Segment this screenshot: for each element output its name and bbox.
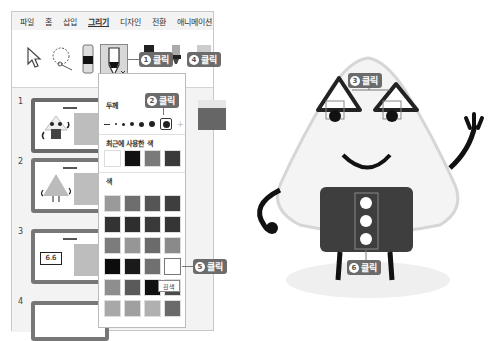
thickness-label: 두께 xyxy=(106,100,118,110)
recent-colors-label: 최근에 사용한 색 xyxy=(106,138,153,148)
thickness-option[interactable] xyxy=(149,121,155,127)
color-swatch[interactable] xyxy=(104,258,121,275)
recent-color-swatch[interactable] xyxy=(164,150,181,167)
left-leg xyxy=(338,252,340,280)
callout-6: 6클릭 xyxy=(347,260,381,275)
button-dot xyxy=(360,233,372,245)
color-swatch[interactable] xyxy=(164,300,181,317)
color-swatch[interactable] xyxy=(144,195,161,212)
color-swatch[interactable] xyxy=(104,195,121,212)
editor-area-shape xyxy=(198,108,226,130)
color-swatch[interactable] xyxy=(144,300,161,317)
callout-1: 1클릭 xyxy=(139,52,173,67)
pen-1-icon[interactable] xyxy=(82,44,94,74)
color-swatch[interactable] xyxy=(124,237,141,254)
recent-color-swatch[interactable] xyxy=(144,150,161,167)
recent-color-swatch[interactable] xyxy=(104,150,121,167)
ribbon-tabs: 파일 홈 삽입 그리기 디자인 전환 애니메이션 xyxy=(12,12,213,30)
callout-3: 3클릭 xyxy=(348,73,382,88)
rice-ball-illustration xyxy=(39,172,73,204)
color-swatch[interactable] xyxy=(144,258,161,275)
slide-number: 1 xyxy=(18,97,23,106)
thickness-option[interactable] xyxy=(139,122,144,127)
color-swatch[interactable] xyxy=(164,237,181,254)
button-dot xyxy=(360,215,372,227)
recent-color-swatch[interactable] xyxy=(124,150,141,167)
divider xyxy=(99,134,185,135)
color-swatch[interactable] xyxy=(104,237,121,254)
thickness-option[interactable] xyxy=(104,124,110,125)
color-swatch[interactable] xyxy=(144,216,161,233)
color-swatch[interactable] xyxy=(104,300,121,317)
character-illustration xyxy=(39,114,73,144)
lasso-select-icon[interactable] xyxy=(50,46,74,72)
select-arrow-icon[interactable] xyxy=(26,46,42,70)
button-dot xyxy=(360,197,372,209)
callout-2: 2클릭 xyxy=(145,93,179,108)
color-swatch[interactable] xyxy=(124,279,141,296)
tab-draw[interactable]: 그리기 xyxy=(88,16,109,27)
colors-label: 색 xyxy=(106,176,112,186)
right-leg xyxy=(390,252,392,280)
right-arm xyxy=(450,125,475,168)
slide-number: 3 xyxy=(18,227,23,236)
divider xyxy=(99,172,185,173)
callout-5: 5클릭 xyxy=(193,259,227,274)
tab-transitions[interactable]: 전환 xyxy=(152,16,166,27)
rice-ball-character xyxy=(240,0,493,328)
color-swatch[interactable] xyxy=(124,300,141,317)
slide-number: 4 xyxy=(18,297,23,306)
thickness-option-selected[interactable] xyxy=(160,118,172,130)
tab-animations[interactable]: 애니메이션 xyxy=(177,16,212,27)
tab-design[interactable]: 디자인 xyxy=(120,16,141,27)
slide-title xyxy=(63,167,77,169)
thickness-option[interactable] xyxy=(130,122,134,126)
color-swatch[interactable] xyxy=(104,216,121,233)
tab-file[interactable]: 파일 xyxy=(20,16,34,27)
thickness-option[interactable] xyxy=(122,123,125,126)
thickness-increase-icon[interactable]: + xyxy=(177,120,184,129)
color-swatch[interactable] xyxy=(104,279,121,296)
callout-4: 4클릭 xyxy=(187,52,221,67)
color-swatch[interactable] xyxy=(124,216,141,233)
color-swatch[interactable] xyxy=(164,216,181,233)
color-swatch[interactable] xyxy=(144,237,161,254)
color-swatch[interactable] xyxy=(164,195,181,212)
slide-title xyxy=(63,107,77,109)
color-swatch[interactable] xyxy=(124,258,141,275)
white-color-swatch[interactable] xyxy=(164,258,181,275)
tab-insert[interactable]: 삽입 xyxy=(63,16,77,27)
tab-home[interactable]: 홈 xyxy=(45,16,52,27)
color-tooltip: 흰색 xyxy=(158,280,180,292)
slide-number: 2 xyxy=(18,157,23,166)
color-swatch[interactable] xyxy=(124,195,141,212)
callout-leader xyxy=(163,108,164,115)
eyes-box: 6.6 xyxy=(40,252,62,265)
thickness-options: + xyxy=(104,118,184,130)
slide-title xyxy=(63,238,77,240)
editor-area-strip xyxy=(198,100,226,108)
slide-thumbnails-pane: 1 2 3 6.6 xyxy=(12,89,104,332)
thickness-option[interactable] xyxy=(115,123,117,125)
